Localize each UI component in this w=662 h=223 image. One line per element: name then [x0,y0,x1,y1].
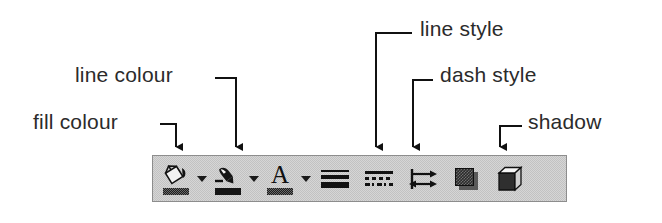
line-weight-icon [321,167,349,191]
callout-label-shadow: shadow [528,110,602,133]
letter-a-glyph: A [271,164,289,186]
callout-label-line-style: line style [420,17,504,40]
dash-style-button[interactable] [357,159,401,199]
callout-label-dash-style: dash style [440,63,537,86]
font-colour-button[interactable]: A [261,159,299,199]
fill-colour-button[interactable] [157,159,195,199]
callout-label-line-colour: line colour [75,63,173,86]
line-colour-swatch [215,188,241,195]
annotated-toolbar-figure: line style line colour dash style fill c… [0,0,662,223]
leader-fill-colour [160,124,176,147]
leader-line-style [376,33,412,147]
line-colour-dropdown[interactable] [247,159,261,199]
arrow-style-icon [408,167,438,191]
fill-colour-swatch [163,188,189,195]
threed-button[interactable] [489,159,533,199]
chevron-down-icon [301,176,311,182]
dash-pattern-icon [365,168,393,189]
line-colour-button[interactable] [209,159,247,199]
letter-a-icon: A [271,163,289,187]
chevron-down-icon [197,176,207,182]
fill-colour-dropdown[interactable] [195,159,209,199]
shadow-icon [454,167,480,191]
font-colour-swatch [267,188,293,195]
drawing-toolbar: A [152,155,567,202]
font-colour-dropdown[interactable] [299,159,313,199]
leader-dash-style [413,80,433,147]
pen-icon [214,163,242,187]
shadow-button[interactable] [445,159,489,199]
leader-line-colour [215,78,236,147]
callout-label-fill-colour: fill colour [33,110,118,133]
cube-3d-icon [497,167,525,191]
leader-shadow [500,126,522,147]
line-style-button[interactable] [313,159,357,199]
chevron-down-icon [249,176,259,182]
paint-bucket-icon [163,163,189,187]
arrow-style-button[interactable] [401,159,445,199]
